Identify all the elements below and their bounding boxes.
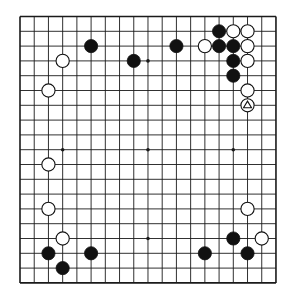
black-stone[interactable] <box>227 40 240 53</box>
white-stone[interactable] <box>255 232 268 245</box>
star-point <box>146 59 150 63</box>
white-stone[interactable] <box>42 84 55 97</box>
white-stone[interactable] <box>56 232 69 245</box>
white-stone[interactable] <box>241 99 254 112</box>
black-stone[interactable] <box>212 40 225 53</box>
black-stone[interactable] <box>227 232 240 245</box>
white-stone[interactable] <box>56 54 69 67</box>
black-stone[interactable] <box>170 40 183 53</box>
star-point <box>146 237 150 241</box>
black-stone[interactable] <box>227 69 240 82</box>
black-stone[interactable] <box>198 247 211 260</box>
black-stone[interactable] <box>42 247 55 260</box>
white-stone[interactable] <box>241 25 254 38</box>
white-stone[interactable] <box>227 25 240 38</box>
black-stone[interactable] <box>85 40 98 53</box>
black-stone[interactable] <box>241 247 254 260</box>
star-point <box>232 148 236 152</box>
black-stone[interactable] <box>212 25 225 38</box>
white-stone[interactable] <box>241 84 254 97</box>
black-stone[interactable] <box>56 262 69 275</box>
white-stone[interactable] <box>241 40 254 53</box>
black-stone[interactable] <box>227 54 240 67</box>
black-stone[interactable] <box>85 247 98 260</box>
go-board[interactable] <box>0 0 293 301</box>
white-stone[interactable] <box>42 202 55 215</box>
white-stone[interactable] <box>241 202 254 215</box>
white-stone[interactable] <box>241 54 254 67</box>
star-point <box>61 148 65 152</box>
white-stone[interactable] <box>42 158 55 171</box>
star-point <box>146 148 150 152</box>
black-stone[interactable] <box>127 54 140 67</box>
white-stone[interactable] <box>198 40 211 53</box>
